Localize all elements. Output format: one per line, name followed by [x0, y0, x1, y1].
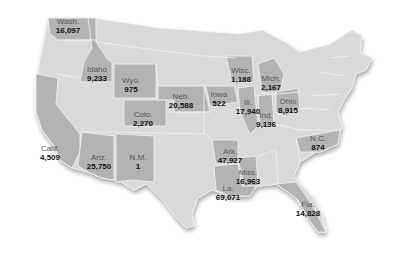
state-name: Miss.: [236, 168, 260, 177]
state-value: 47,927: [218, 156, 242, 165]
state-name: N.C.: [310, 134, 326, 143]
state-value: 2,167: [261, 83, 281, 92]
state-name: Idaho: [87, 65, 107, 74]
state-name: La.: [216, 184, 240, 193]
state-value: 522: [211, 99, 228, 108]
state-name: Ill.: [236, 98, 260, 107]
state-value: 20,588: [169, 101, 193, 110]
state-name: Ark.: [218, 147, 242, 156]
label-wisc: Wisc.1,188: [231, 66, 251, 84]
state-value: 874: [310, 143, 326, 152]
label-iowa: Iowa522: [211, 90, 228, 108]
state-name: Wisc.: [231, 66, 251, 75]
label-ohio: Ohio8,915: [278, 97, 298, 115]
label-ark: Ark.47,927: [218, 147, 242, 165]
state-value: 16,097: [56, 26, 80, 35]
state-value: 4,509: [40, 153, 60, 162]
label-mich: Mich.2,167: [261, 74, 281, 92]
state-name: Colo.: [133, 110, 153, 119]
label-ariz: Ariz.25,750: [87, 153, 111, 171]
state-value: 9,136: [256, 120, 276, 129]
state-name: Ohio: [278, 97, 298, 106]
us-state-map: Wash.16,097 Idaho9,233 Wyo.975 Neb.20,58…: [0, 0, 402, 261]
state-name: Fla.: [296, 200, 320, 209]
label-neb: Neb.20,588: [169, 92, 193, 110]
state-value: 14,828: [296, 209, 320, 218]
state-name: Ariz.: [87, 153, 111, 162]
state-name: Wash.: [56, 17, 80, 26]
state-name: N.M.: [130, 153, 147, 162]
state-value: 975: [122, 85, 140, 94]
state-value: 2,270: [133, 119, 153, 128]
label-ind: Ind.9,136: [256, 111, 276, 129]
state-name: Calif.: [40, 144, 60, 153]
label-calif: Calif.4,509: [40, 144, 60, 162]
label-idaho: Idaho9,233: [87, 65, 107, 83]
label-la: La.69,071: [216, 184, 240, 202]
state-name: Neb.: [169, 92, 193, 101]
state-value: 1: [130, 162, 147, 171]
label-fla: Fla.14,828: [296, 200, 320, 218]
state-value: 69,071: [216, 193, 240, 202]
label-nm: N.M.1: [130, 153, 147, 171]
label-wyo: Wyo.975: [122, 76, 140, 94]
us-map-shape: [0, 0, 402, 261]
state-name: Ind.: [256, 111, 276, 120]
state-value: 1,188: [231, 75, 251, 84]
state-name: Iowa: [211, 90, 228, 99]
state-name: Mich.: [261, 74, 281, 83]
state-value: 8,915: [278, 106, 298, 115]
state-name: Wyo.: [122, 76, 140, 85]
label-wash: Wash.16,097: [56, 17, 80, 35]
label-colo: Colo.2,270: [133, 110, 153, 128]
state-value: 9,233: [87, 74, 107, 83]
label-nc: N.C.874: [310, 134, 326, 152]
state-value: 25,750: [87, 162, 111, 171]
